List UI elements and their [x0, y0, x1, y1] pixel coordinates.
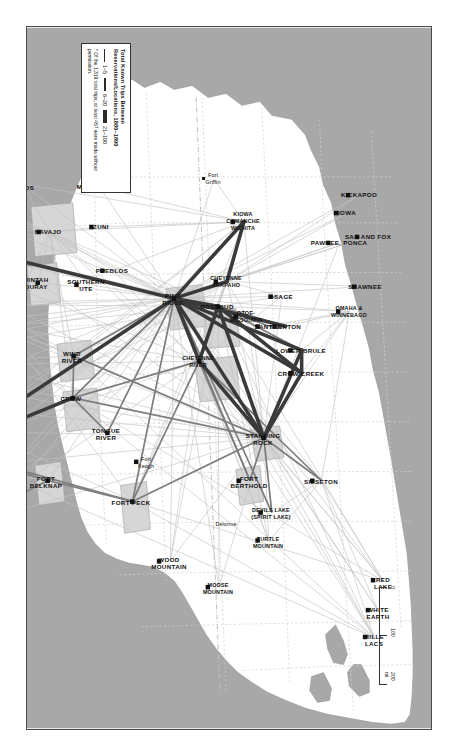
place-label-fort-belknap: FORT BELKNAP: [30, 475, 62, 489]
place-label-wind-river: WIND RIVER: [62, 350, 83, 364]
place-label-uintah-ouray: UINTAH OURAY: [26, 276, 49, 290]
place-label-delorme: Delorme: [215, 521, 236, 528]
place-label-crow-creek: CROW CREEK: [278, 370, 324, 377]
place-label-zuni: ZUNI: [93, 223, 109, 230]
legend-class-1: 1–5: [102, 49, 108, 74]
place-label-fort-keogh: Fort Keogh: [138, 456, 154, 470]
scale-label-100: 100: [390, 628, 396, 637]
place-label-san-carlos: SAN CARLOS: [26, 177, 34, 191]
legend-class-1-label: 1–5: [102, 65, 108, 74]
legend-class-3: 21–100: [102, 110, 108, 144]
place-label-santee: SANTEE: [254, 323, 281, 330]
scale-bar-rule: 0 100 200 mi: [379, 587, 387, 685]
place-label-omaha-winnebago: OMAHA & WINNEBAGO: [331, 305, 367, 319]
place-label-iowa: IOWA: [338, 209, 356, 216]
legend-class-2: 6–20: [102, 78, 108, 106]
legend: Total Known Trips Between Reservations/L…: [81, 43, 131, 193]
place-label-otoe-missouria: OTOE- MISSOURIA: [230, 310, 262, 324]
scale-label-200: 200 mi: [384, 672, 396, 684]
map-canvas: SISSETONMILLE LACSRED LAKEWHITE EARTHTUR…: [26, 26, 432, 730]
place-label-southern-ute: SOUTHERN UTE: [67, 278, 105, 292]
place-label-sisseton: SISSETON: [304, 478, 338, 485]
map-page: SISSETONMILLE LACSRED LAKEWHITE EARTHTUR…: [0, 0, 458, 756]
scale-bar: 0 100 200 mi: [379, 587, 387, 685]
scale-tick-mid: [380, 635, 387, 636]
place-label-devils-lake: DEVILS LAKE (SPIRIT LAKE): [251, 507, 291, 521]
place-label-pueblos: PUEBLOS: [96, 267, 128, 274]
place-label-fort-peck: FORT PECK: [112, 499, 151, 506]
legend-classes: 1–5 6–20 21–100: [102, 49, 108, 187]
place-label-kiowa-comanche-wichita: KIOWA COMANCHE WICHITA: [226, 211, 259, 233]
place-label-turtle-mountain: TURTLE MOUNTAIN: [253, 536, 283, 550]
place-label-wood-mountain: WOOD MOUNTAIN: [151, 556, 187, 570]
place-label-fort-griffin: Fort Griffin: [206, 172, 221, 186]
place-label-moose-mountain: MOOSE MOUNTAIN: [203, 582, 233, 596]
legend-title: Total Known Trips Between Reservations/L…: [112, 49, 126, 187]
place-label-cheyenne-river: CHEYENNE RIVER: [182, 355, 214, 369]
legend-class-2-label: 6–20: [102, 94, 108, 106]
place-label-tongue-river: TONGUE RIVER: [92, 427, 120, 441]
legend-swatch-thick-icon: [103, 110, 107, 123]
place-label-standing-rock: STANDING ROCK: [246, 432, 281, 446]
place-label-shawnee: SHAWNEE: [348, 283, 382, 290]
place-label-sac-and-fox: SAC AND FOX: [345, 233, 391, 240]
legend-swatch-medium-icon: [104, 78, 106, 91]
scale-label-0: 0: [390, 586, 396, 589]
legend-note: * Of the 1,319 total trips, at least 457…: [86, 49, 98, 187]
place-label-pine-ridge: PINE RIDGE: [162, 292, 183, 306]
place-label-navajo: NAVAJO: [35, 228, 62, 235]
legend-class-3-label: 21–100: [102, 126, 108, 144]
place-label-osage: OSAGE: [269, 293, 293, 300]
place-label-cheyenne-arapaho: CHEYENNE ARAPAHO: [210, 275, 242, 289]
place-label-rosebud: ROSEBUD: [200, 303, 233, 310]
rotation-wrapper: SISSETONMILLE LACSRED LAKEWHITE EARTHTUR…: [0, 0, 458, 756]
legend-swatch-thin-icon: [105, 49, 106, 62]
place-label-lower-brule: LOWER BRULE: [276, 347, 326, 354]
place-label-kickapoo: KICKAPOO: [341, 191, 377, 198]
place-label-crow: CROW: [61, 395, 82, 402]
place-label-fort-berthold: FORT BERTHOLD: [230, 475, 267, 489]
